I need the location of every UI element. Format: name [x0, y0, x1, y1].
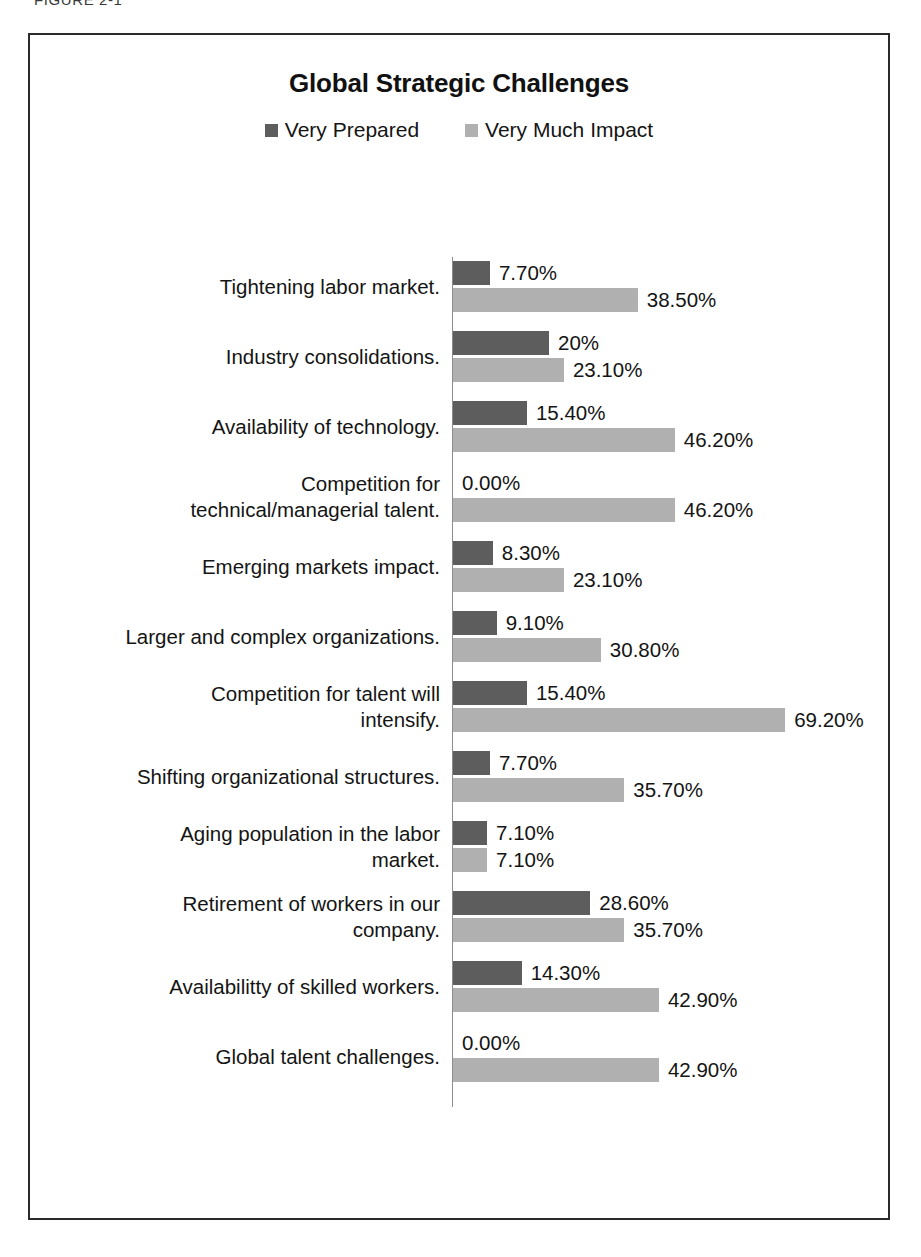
bar-value-label: 46.20% — [675, 428, 754, 452]
bar-impact[interactable] — [453, 288, 638, 312]
category-label-line: Competition for talent will — [110, 681, 440, 707]
category-label-line: Emerging markets impact. — [110, 554, 440, 580]
bar-prepared[interactable] — [453, 821, 487, 845]
legend-entry-2[interactable]: Very Much Impact — [465, 118, 653, 142]
legend-entry-1[interactable]: Very Prepared — [265, 118, 419, 142]
category-label-line: intensify. — [110, 707, 440, 733]
category-label: Industry consolidations. — [110, 344, 452, 370]
bar-value-label: 28.60% — [590, 891, 669, 915]
category-label-line: Shifting organizational structures. — [110, 764, 440, 790]
category-label-line: Tightening labor market. — [110, 274, 440, 300]
bar-value-label: 42.90% — [659, 1058, 738, 1082]
bar-value-label: 15.40% — [527, 681, 606, 705]
bar-value-label: 23.10% — [564, 568, 643, 592]
bar-prepared[interactable] — [453, 401, 527, 425]
bar-impact[interactable] — [453, 638, 601, 662]
bar-value-label: 8.30% — [493, 541, 560, 565]
category-label: Shifting organizational structures. — [110, 764, 452, 790]
bar-prepared[interactable] — [453, 961, 522, 985]
bar-prepared[interactable] — [453, 681, 527, 705]
bar-value-label: 35.70% — [624, 778, 703, 802]
bar-impact[interactable] — [453, 918, 624, 942]
category-label: Emerging markets impact. — [110, 554, 452, 580]
bar-impact[interactable] — [453, 568, 564, 592]
category-label: Competition fortechnical/managerial tale… — [110, 471, 452, 523]
category-label-line: Larger and complex organizations. — [110, 624, 440, 650]
bar-value-label: 0.00% — [453, 1031, 520, 1055]
figure-caption: FIGURE 2-1 — [34, 0, 123, 8]
legend-label: Very Prepared — [285, 118, 419, 142]
bar-value-label: 23.10% — [564, 358, 643, 382]
category-label-line: Availabilitty of skilled workers. — [110, 974, 440, 1000]
bar-value-label: 30.80% — [601, 638, 680, 662]
bar-value-label: 38.50% — [638, 288, 717, 312]
category-label: Retirement of workers in ourcompany. — [110, 891, 452, 943]
category-label-line: Aging population in the labor — [110, 821, 440, 847]
square-swatch-icon — [465, 124, 478, 137]
bar-prepared[interactable] — [453, 611, 497, 635]
legend-label: Very Much Impact — [485, 118, 653, 142]
bar-prepared[interactable] — [453, 331, 549, 355]
bar-prepared[interactable] — [453, 891, 590, 915]
category-label-line: market. — [110, 847, 440, 873]
category-label-line: Retirement of workers in our — [110, 891, 440, 917]
category-label: Availabilitty of skilled workers. — [110, 974, 452, 1000]
bar-impact[interactable] — [453, 428, 675, 452]
bar-impact[interactable] — [453, 358, 564, 382]
bar-value-label: 46.20% — [675, 498, 754, 522]
chart-legend: Very PreparedVery Much Impact — [30, 118, 888, 142]
category-label-line: Global talent challenges. — [110, 1044, 440, 1070]
category-label: Competition for talent willintensify. — [110, 681, 452, 733]
category-label: Global talent challenges. — [110, 1044, 452, 1070]
category-label-line: Availability of technology. — [110, 414, 440, 440]
bar-prepared[interactable] — [453, 541, 493, 565]
bar-impact[interactable] — [453, 1058, 659, 1082]
bar-prepared[interactable] — [453, 261, 490, 285]
bar-impact[interactable] — [453, 848, 487, 872]
plot-area: Tightening labor market.7.70%38.50%Indus… — [30, 257, 892, 1107]
bar-value-label: 35.70% — [624, 918, 703, 942]
bar-value-label: 7.70% — [490, 261, 557, 285]
bar-value-label: 0.00% — [453, 471, 520, 495]
category-label-line: company. — [110, 917, 440, 943]
bar-value-label: 9.10% — [497, 611, 564, 635]
bar-value-label: 42.90% — [659, 988, 738, 1012]
bar-value-label: 20% — [549, 331, 599, 355]
square-swatch-icon — [265, 124, 278, 137]
bar-prepared[interactable] — [453, 751, 490, 775]
category-label-line: technical/managerial talent. — [110, 497, 440, 523]
category-label: Tightening labor market. — [110, 274, 452, 300]
category-label-line: Industry consolidations. — [110, 344, 440, 370]
bar-impact[interactable] — [453, 708, 785, 732]
bar-impact[interactable] — [453, 988, 659, 1012]
bar-value-label: 14.30% — [522, 961, 601, 985]
bar-value-label: 15.40% — [527, 401, 606, 425]
chart-frame: Global Strategic Challenges Very Prepare… — [28, 33, 890, 1220]
bar-impact[interactable] — [453, 778, 624, 802]
bar-impact[interactable] — [453, 498, 675, 522]
bar-value-label: 7.10% — [487, 821, 554, 845]
bar-value-label: 7.70% — [490, 751, 557, 775]
category-label: Aging population in the labormarket. — [110, 821, 452, 873]
bar-value-label: 7.10% — [487, 848, 554, 872]
bar-value-label: 69.20% — [785, 708, 864, 732]
category-label-line: Competition for — [110, 471, 440, 497]
category-label: Availability of technology. — [110, 414, 452, 440]
category-label: Larger and complex organizations. — [110, 624, 452, 650]
chart-title: Global Strategic Challenges — [30, 68, 888, 99]
